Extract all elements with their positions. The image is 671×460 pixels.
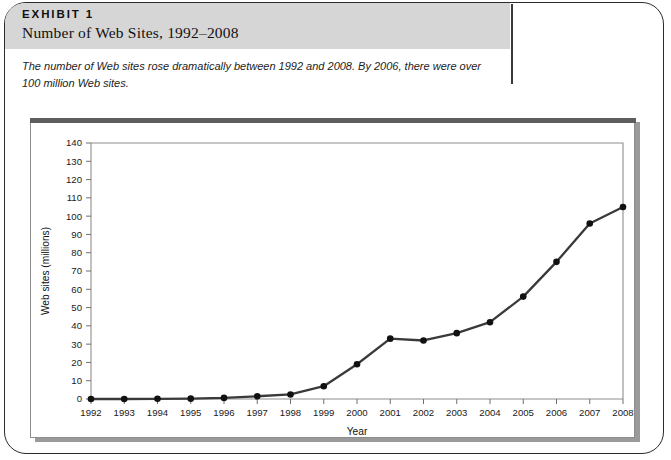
y-tick-label: 80	[71, 247, 82, 258]
x-tick-label: 1998	[280, 407, 301, 418]
x-tick-label: 1993	[114, 407, 135, 418]
data-point-marker	[187, 395, 194, 402]
line-chart: 0102030405060708090100110120130140199219…	[31, 119, 636, 439]
x-axis-title: Year	[347, 426, 368, 437]
x-tick-label: 2006	[546, 407, 567, 418]
x-tick-label: 2007	[579, 407, 600, 418]
x-tick-label: 2005	[513, 407, 534, 418]
data-point-marker	[487, 319, 494, 326]
y-tick-label: 0	[77, 393, 82, 404]
data-point-marker	[387, 335, 394, 342]
y-tick-label: 110	[67, 192, 82, 203]
y-tick-label: 130	[66, 156, 82, 167]
data-point-marker	[121, 396, 128, 403]
chart-panel-topbar	[30, 118, 636, 123]
x-tick-label: 2004	[479, 407, 501, 418]
y-tick-label: 90	[71, 229, 82, 240]
data-point-marker	[354, 361, 361, 368]
x-tick-label: 1995	[180, 407, 201, 418]
data-point-marker	[88, 396, 95, 403]
data-point-marker	[154, 396, 161, 403]
data-point-marker	[221, 395, 228, 402]
y-tick-label: 60	[71, 284, 82, 295]
chart-panel: 0102030405060708090100110120130140199219…	[30, 118, 635, 438]
y-tick-label: 10	[71, 375, 82, 386]
y-tick-label: 20	[71, 357, 82, 368]
data-point-marker	[453, 330, 460, 337]
exhibit-caption: The number of Web sites rose dramaticall…	[22, 58, 492, 91]
data-point-marker	[320, 383, 327, 390]
header-divider	[511, 4, 513, 84]
y-axis-title: Web sites (millions)	[40, 227, 51, 315]
x-tick-label: 2008	[612, 407, 633, 418]
x-tick-label: 1999	[313, 407, 334, 418]
data-point-marker	[520, 293, 527, 300]
data-point-marker	[620, 204, 627, 211]
series-line	[91, 207, 623, 399]
data-point-marker	[553, 259, 560, 266]
x-tick-label: 2000	[346, 407, 367, 418]
exhibit-header-text: EXHIBIT 1 Number of Web Sites, 1992–2008	[22, 7, 492, 43]
y-tick-label: 30	[71, 339, 82, 350]
y-tick-label: 40	[71, 320, 82, 331]
exhibit-title: Number of Web Sites, 1992–2008	[22, 23, 492, 43]
data-point-marker	[586, 220, 593, 227]
data-point-marker	[420, 337, 427, 344]
x-tick-label: 2001	[380, 407, 401, 418]
exhibit-label: EXHIBIT 1	[22, 7, 492, 21]
y-tick-label: 100	[66, 211, 82, 222]
x-tick-label: 1994	[147, 407, 169, 418]
y-tick-label: 70	[71, 265, 82, 276]
data-point-marker	[254, 393, 261, 400]
x-tick-label: 2003	[446, 407, 467, 418]
x-tick-label: 1997	[247, 407, 268, 418]
x-tick-label: 1992	[80, 407, 101, 418]
y-tick-label: 140	[66, 137, 82, 148]
y-tick-label: 50	[71, 302, 82, 313]
x-tick-label: 2002	[413, 407, 434, 418]
data-point-marker	[287, 391, 294, 398]
x-tick-label: 1996	[213, 407, 234, 418]
y-tick-label: 120	[66, 174, 82, 185]
